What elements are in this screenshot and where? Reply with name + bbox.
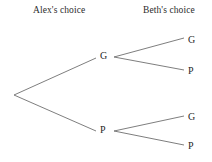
edge-alex-p-to-leaf-p (114, 131, 184, 145)
tree-edges (0, 0, 212, 162)
node-alex-g: G (100, 51, 107, 61)
leaf-node-beth-g-upper: G (188, 35, 195, 45)
edge-alex-g-to-leaf-g (114, 38, 184, 57)
leaf-node-beth-p-upper: P (188, 66, 194, 76)
edge-root-to-alex-p (14, 95, 96, 131)
node-alex-p: P (100, 125, 106, 135)
edge-root-to-alex-g (14, 58, 96, 95)
leaf-node-beth-g-lower: G (188, 112, 195, 122)
leaf-node-beth-p-lower: P (188, 141, 194, 151)
edge-alex-g-to-leaf-p (114, 57, 184, 70)
edge-alex-p-to-leaf-g (114, 116, 184, 131)
game-tree-figure: Alex's choice Beth's choice G P G P G P (0, 0, 212, 162)
